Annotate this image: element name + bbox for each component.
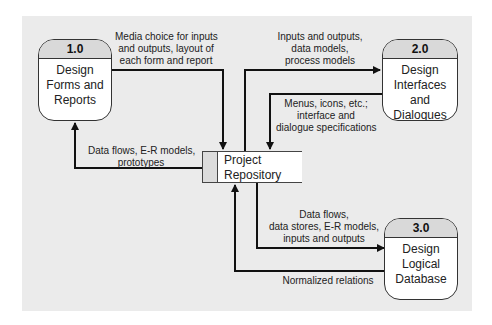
data-store-name: Project Repository <box>224 153 281 183</box>
process-number: 2.0 <box>383 40 457 59</box>
flow-label-inputs-outputs: Inputs and outputs, data models, process… <box>270 31 370 67</box>
process-number: 3.0 <box>385 219 457 238</box>
flow-label-media-choice: Media choice for inputs and outputs, lay… <box>115 31 217 67</box>
flow-label-data-flows-er: Data flows, E-R models, prototypes <box>88 145 194 169</box>
data-store-project-repository: Project Repository <box>202 151 302 183</box>
process-2-0: 2.0 Design Interfaces and Dialogues <box>382 39 458 121</box>
process-name: Design Interfaces and Dialogues <box>383 59 457 121</box>
process-name: Design Forms and Reports <box>39 59 111 108</box>
flow-label-menus-icons: Menus, icons, etc.; interface and dialog… <box>276 98 376 134</box>
process-name: Design Logical Database <box>385 238 457 287</box>
flow-label-data-stores: Data flows, data stores, E-R models, inp… <box>268 209 380 245</box>
flow-label-normalized-relations: Normalized relations <box>278 275 378 287</box>
process-3-0: 3.0 Design Logical Database <box>384 218 458 300</box>
process-number: 1.0 <box>39 40 111 59</box>
data-store-id-tab <box>203 152 218 182</box>
flow-1-to-repo <box>111 70 223 149</box>
process-1-0: 1.0 Design Forms and Reports <box>38 39 112 121</box>
